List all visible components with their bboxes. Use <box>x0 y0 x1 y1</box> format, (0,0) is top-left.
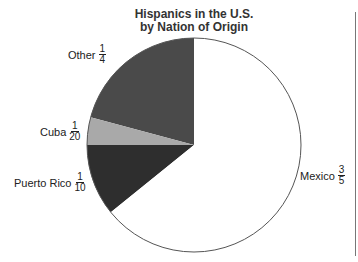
label-mexico-fraction: 3 5 <box>338 165 346 186</box>
label-cuba-name: Cuba <box>40 126 66 138</box>
label-puerto-rico-name: Puerto Rico <box>14 177 71 189</box>
label-other-name: Other <box>68 49 96 61</box>
label-puerto-rico-fraction: 1 10 <box>74 172 85 193</box>
label-mexico: Mexico 3 5 <box>300 165 345 186</box>
label-mexico-name: Mexico <box>300 170 335 182</box>
label-other: Other 1 4 <box>68 44 106 65</box>
page-edge-divider <box>355 12 356 256</box>
label-puerto-rico: Puerto Rico 1 10 <box>14 172 86 193</box>
label-cuba-fraction: 1 20 <box>69 121 80 142</box>
label-other-fraction: 1 4 <box>99 44 107 65</box>
label-cuba: Cuba 1 20 <box>40 121 80 142</box>
